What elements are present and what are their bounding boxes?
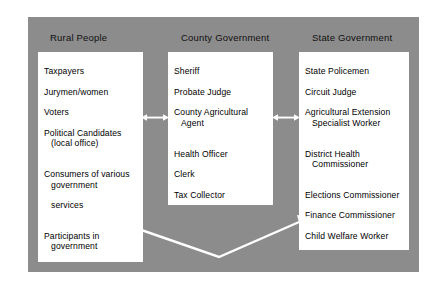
list-item-label: District Health <box>305 149 360 159</box>
list-item: Voters <box>44 97 138 118</box>
list-state-government: State Policemen Circuit Judge Agricultur… <box>305 56 404 250</box>
list-item-continuation: Agent <box>174 118 268 128</box>
list-item-continuation: government <box>44 180 138 190</box>
list-item: District Health Commissioner <box>305 138 404 179</box>
list-item: Planner <box>305 241 404 250</box>
column-heading-rural-people: Rural People <box>50 32 107 43</box>
list-item: Political Candidates (local office) <box>44 118 138 159</box>
list-item-label: Elections Commissioner <box>305 190 399 200</box>
list-item-label: Finance Commissioner <box>305 210 395 220</box>
list-item-label: Sheriff <box>174 66 199 76</box>
list-item-label: Taxpayers <box>44 66 84 76</box>
list-item: Jurymen/women <box>44 77 138 98</box>
list-item-label: Child Welfare Worker <box>305 231 388 241</box>
list-item-label: Circuit Judge <box>305 87 356 97</box>
list-item: Health Officer <box>174 138 268 159</box>
list-item-continuation: services <box>44 200 138 210</box>
list-item: Clerk <box>174 159 268 180</box>
list-item: Taxpayers <box>44 56 138 77</box>
list-item: Agricultural Extension Specialist Worker <box>305 97 404 138</box>
list-item-continuation: Specialist Worker <box>305 118 404 128</box>
list-item-label: State Policemen <box>305 66 369 76</box>
list-box-state-government: State Policemen Circuit Judge Agricultur… <box>299 52 409 250</box>
list-item: Child Welfare Worker <box>305 221 404 242</box>
list-county-government: Sheriff Probate Judge County Agricultura… <box>174 56 268 205</box>
list-item-label: Voters <box>44 107 69 117</box>
list-item-label: Probate Judge <box>174 87 231 97</box>
connector-rural-county-double-arrow-icon <box>141 113 169 122</box>
list-item-continuation: Commissioner <box>305 159 404 169</box>
list-item: Circuit Judge <box>305 77 404 98</box>
list-item-label: Agricultural Extension <box>305 107 390 117</box>
list-box-county-government: Sheriff Probate Judge County Agricultura… <box>168 52 273 205</box>
list-item-label: Participants in <box>44 231 99 241</box>
list-item: Welfare Worker <box>174 200 268 205</box>
list-item: Elections Commissioner <box>305 180 404 201</box>
column-heading-state-government: State Government <box>312 32 392 43</box>
connector-county-state-double-arrow-icon <box>272 113 300 122</box>
connector-rural-state-v-double-arrow-icon <box>110 212 315 264</box>
list-item-label: Health Officer <box>174 149 228 159</box>
list-item-label: Jurymen/women <box>44 87 108 97</box>
list-item-label: Consumers of various <box>44 169 130 179</box>
list-item: Probate Judge <box>174 77 268 98</box>
column-heading-county-government: County Government <box>181 32 269 43</box>
list-item: State Policemen <box>305 56 404 77</box>
list-item: Tax Collector <box>174 180 268 201</box>
list-item: Sheriff <box>174 56 268 77</box>
list-item: Finance Commissioner <box>305 200 404 221</box>
list-item-label: Tax Collector <box>174 190 225 200</box>
list-item: County Agricultural Agent <box>174 97 268 138</box>
list-item-label: Political Candidates <box>44 128 121 138</box>
list-item-label: Clerk <box>174 169 195 179</box>
list-item-continuation: (local office) <box>44 138 138 148</box>
list-item-label: County Agricultural <box>174 107 248 117</box>
diagram-root: Rural People County Government State Gov… <box>0 0 442 289</box>
